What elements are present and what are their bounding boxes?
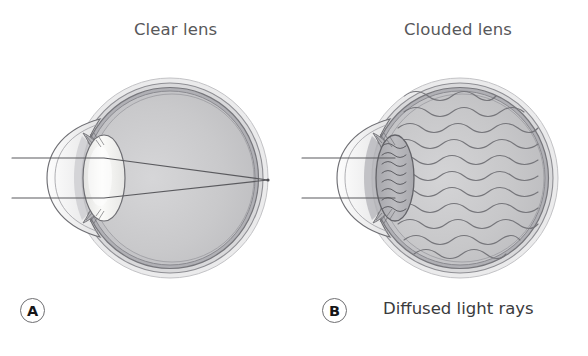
panel-b-caption: Diffused light rays [383, 299, 534, 318]
panel-a-eye-diagram [12, 78, 270, 278]
panel-b-marker: B [322, 298, 347, 323]
clouded-lens-b [376, 135, 414, 221]
panel-a-title: Clear lens [134, 20, 217, 39]
panel-b-title: Clouded lens [404, 20, 512, 39]
panel-b-eye-diagram [302, 78, 558, 278]
focal-point-a [266, 178, 269, 181]
panel-a-marker: A [20, 298, 45, 323]
